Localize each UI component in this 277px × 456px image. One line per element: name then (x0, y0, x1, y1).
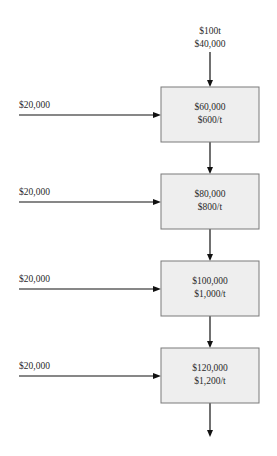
side-input-label-1: $20,000 (19, 100, 50, 110)
side-input-arrow-2-head (153, 199, 161, 205)
stage-value-total: $80,000 (195, 189, 226, 199)
stage-value-per-ton: $1,200/t (194, 376, 226, 386)
stage-box-4: $120,000$1,200/t (161, 348, 259, 403)
transfer-arrow-3 (207, 316, 213, 348)
side-input-label-3: $20,000 (19, 274, 50, 284)
transfer-arrow-2-head (207, 254, 213, 261)
flow-diagram: $100t $40,000 $20,000$20,000$20,000$20,0… (0, 0, 277, 456)
initial-input-line-1: $100t (199, 26, 221, 36)
transfer-arrow-1-head (207, 167, 213, 174)
initial-input-line-2: $40,000 (195, 39, 226, 49)
side-input-arrow-1 (19, 112, 161, 118)
side-input-label-2: $20,000 (19, 187, 50, 197)
stage-value-total: $100,000 (192, 276, 228, 286)
side-input-arrow-3-head (153, 286, 161, 292)
transfer-arrow-3-head (207, 341, 213, 348)
transfer-arrow-1 (207, 142, 213, 174)
side-input-label-4: $20,000 (19, 361, 50, 371)
transfer-arrow-2 (207, 229, 213, 261)
stage-box-1: $60,000$600/t (161, 87, 259, 142)
side-input-arrow-1-head (153, 112, 161, 118)
stage-value-per-ton: $600/t (198, 115, 223, 125)
stage-value-total: $120,000 (192, 363, 228, 373)
side-input-arrow-2 (19, 199, 161, 205)
side-input-arrow-4-head (153, 373, 161, 379)
stage-value-total: $60,000 (195, 102, 226, 112)
side-input-arrow-4 (19, 373, 161, 379)
stage-box-2: $80,000$800/t (161, 174, 259, 229)
output-arrow (207, 403, 213, 437)
stage-value-per-ton: $800/t (198, 202, 223, 212)
stage-box-3: $100,000$1,000/t (161, 261, 259, 316)
side-input-arrow-3 (19, 286, 161, 292)
stage-value-per-ton: $1,000/t (194, 289, 226, 299)
initial-input-arrow-head (207, 80, 213, 87)
initial-input-arrow (207, 52, 213, 87)
output-arrow-head (207, 430, 213, 437)
